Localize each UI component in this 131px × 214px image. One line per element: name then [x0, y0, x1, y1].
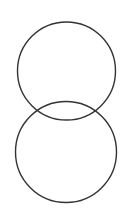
lower-circle [16, 102, 117, 203]
diagram-canvas [0, 0, 131, 214]
upper-circle [18, 22, 116, 120]
